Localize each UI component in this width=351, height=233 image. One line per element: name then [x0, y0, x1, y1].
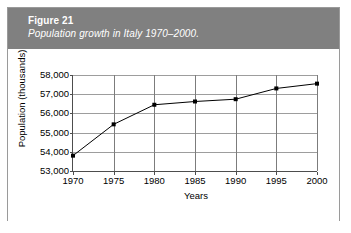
gridline-vertical: [317, 75, 318, 171]
x-tick-label: 1980: [132, 175, 176, 186]
data-point-marker: [234, 97, 238, 101]
x-tick-label: 1975: [92, 175, 136, 186]
x-tick-label: 1985: [173, 175, 217, 186]
x-axis-title: Years: [71, 190, 321, 201]
x-tick-label: 2000: [295, 175, 339, 186]
y-tick-label: 55,000: [23, 127, 69, 138]
data-point-marker: [315, 82, 319, 86]
plot-region: 53,00054,00055,00056,00057,00058,000 197…: [72, 75, 317, 172]
x-tick-label: 1990: [214, 175, 258, 186]
data-point-marker: [112, 122, 116, 126]
data-point-marker: [193, 100, 197, 104]
figure-container: Figure 21 Population growth in Italy 197…: [7, 7, 340, 221]
figure-caption-banner: Figure 21 Population growth in Italy 197…: [8, 8, 339, 49]
data-point-marker: [152, 103, 156, 107]
x-tick-label: 1970: [51, 175, 95, 186]
y-tick-label: 57,000: [23, 88, 69, 99]
figure-number: Figure 21: [28, 14, 339, 27]
x-tick-label: 1995: [254, 175, 298, 186]
data-point-marker: [274, 86, 278, 90]
series-line: [73, 84, 317, 156]
figure-caption-text: Population growth in Italy 1970–2000.: [28, 27, 339, 41]
population-line-series: [73, 75, 317, 171]
chart-area: Population (thousands) Years 53,00054,00…: [8, 49, 339, 221]
y-tick-label: 54,000: [23, 146, 69, 157]
y-tick-label: 58,000: [23, 69, 69, 80]
y-tick-label: 56,000: [23, 107, 69, 118]
data-point-marker: [71, 154, 75, 158]
